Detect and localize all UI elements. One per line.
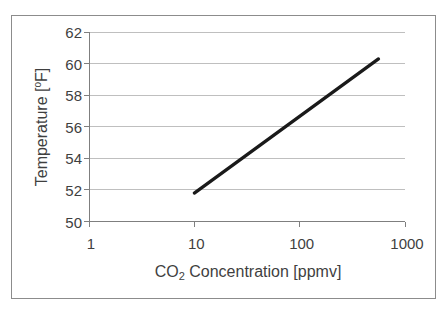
y-tick-label-60: 60 xyxy=(65,56,82,71)
y-tick-label-58: 58 xyxy=(65,88,82,103)
degree-superscript: o xyxy=(32,82,43,88)
y-tick-label-56: 56 xyxy=(65,119,82,134)
chart-canvas: 50525456586062 1101001000 Temperature [o… xyxy=(0,0,447,311)
y-tick-label-50: 50 xyxy=(65,214,82,229)
co2-subscript: 2 xyxy=(179,270,185,282)
y-axis-title-unit: F] xyxy=(33,68,50,82)
x-tick-label-100: 100 xyxy=(289,236,314,251)
x-tick-label-1: 1 xyxy=(87,236,95,251)
y-tick-label-52: 52 xyxy=(65,182,82,197)
series-line-0 xyxy=(194,59,378,193)
y-axis-title: Temperature [oF] xyxy=(34,68,50,187)
x-axis-title: CO2 Concentration [ppmv] xyxy=(155,264,342,280)
y-tick-label-62: 62 xyxy=(65,25,82,40)
y-axis-title-text: Temperature [ xyxy=(33,88,50,187)
x-axis-title-text: CO xyxy=(155,263,179,280)
x-tick-label-10: 10 xyxy=(188,236,205,251)
y-tick-label-54: 54 xyxy=(65,151,82,166)
x-axis-title-unit: Concentration [ppmv] xyxy=(185,263,342,280)
x-tick-label-1000: 1000 xyxy=(390,236,423,251)
